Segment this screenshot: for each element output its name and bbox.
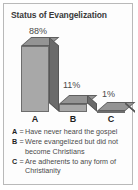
data-label-b: 11% (63, 80, 80, 90)
bar-chart-plot: 88% 11% 1% A B C (4, 26, 134, 122)
legend-text-a: Have never heard the gospel (25, 127, 130, 137)
bar-a (21, 46, 49, 112)
bar-a-side (49, 37, 59, 112)
legend-item: B = Were evangelized but did not become … (12, 137, 130, 156)
bar-a-front (21, 46, 49, 112)
chart-title: Status of Evangelization (11, 10, 107, 20)
chart-legend: A = Have never heard the gospel B = Were… (12, 127, 130, 176)
axis-label-b: B (65, 114, 81, 124)
bar-b (59, 104, 87, 112)
legend-item: C = Are adherents to any form of Christi… (12, 157, 130, 176)
legend-text-b: Were evangelized but did not become Chri… (25, 137, 130, 156)
legend-text-c: Are adherents to any form of Christianit… (25, 157, 130, 176)
axis-label-c: C (103, 114, 119, 124)
data-label-c: 1% (102, 89, 115, 99)
bar-c (97, 111, 125, 112)
axis-label-a: A (27, 114, 43, 124)
legend-item: A = Have never heard the gospel (12, 127, 130, 137)
bar-c-front (97, 111, 125, 113)
legend-equals: = (18, 157, 25, 176)
bar-b-front (59, 104, 87, 112)
legend-equals: = (18, 137, 25, 156)
chart-card: Status of Evangelization 88% 11% 1% A B … (3, 3, 133, 185)
legend-equals: = (18, 127, 25, 137)
data-label-a: 88% (29, 26, 47, 36)
